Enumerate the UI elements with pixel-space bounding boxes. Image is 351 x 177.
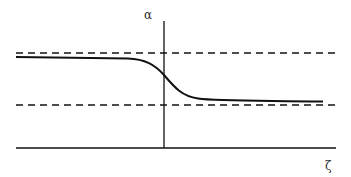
- x-axis-label: ζ: [325, 159, 332, 173]
- diagram-canvas: α ζ: [0, 0, 351, 177]
- y-axis-label: α: [144, 8, 152, 22]
- transition-curve: [16, 57, 323, 102]
